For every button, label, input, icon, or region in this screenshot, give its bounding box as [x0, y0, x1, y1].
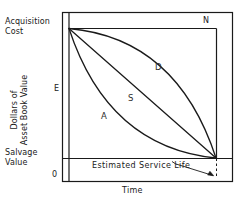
- origin-label: 0: [52, 170, 57, 180]
- curve-label-s: S: [128, 94, 134, 104]
- acquisition-cost-label: Acquisition Cost: [5, 17, 50, 36]
- curve-label-a: A: [101, 112, 107, 122]
- y-axis-point-label-e: E: [54, 84, 59, 94]
- x-axis-label: Time: [122, 186, 143, 196]
- estimated-service-life-label: Estimated Service Life: [92, 161, 190, 171]
- curve-label-d: D: [155, 63, 162, 73]
- curve-s: [69, 29, 216, 159]
- y-axis-label: Dollars of Asset Book Value: [10, 62, 30, 158]
- depreciation-figure: Acquisition Cost Salvage Value 0 E N D S…: [0, 0, 243, 208]
- corner-label-n: N: [203, 16, 209, 26]
- service-life-arrow-head: [208, 171, 214, 176]
